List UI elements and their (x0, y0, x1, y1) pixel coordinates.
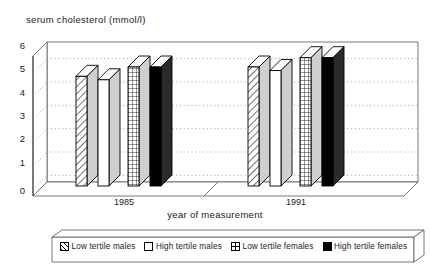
x-tick-label-1991: 1991 (266, 197, 326, 207)
legend-item-low-tertile-females: Low tertile females (231, 242, 314, 251)
bar-1991-low-tertile-females (300, 47, 322, 186)
legend: Low tertile males High tertile males Low… (60, 242, 407, 251)
y-tick-label-1: 1 (11, 157, 25, 168)
legend-item-high-tertile-males: High tertile males (144, 242, 221, 251)
bar-1985-high-tertile-males (98, 69, 120, 186)
y-tick-label-0: 0 (11, 185, 25, 196)
y-tick-label-3: 3 (11, 110, 25, 121)
legend-label-low-tertile-males: Low tertile males (72, 242, 136, 251)
plot-left-wall (33, 42, 47, 196)
y-axis-title: serum cholesterol (mmol/l) (26, 14, 146, 25)
legend-swatch-white-icon (144, 242, 153, 251)
legend-label-high-tertile-males: High tertile males (156, 242, 222, 251)
x-axis-title: year of measurement (0, 209, 430, 220)
y-tick-label-6: 6 (11, 40, 25, 51)
x-tick-label-1985: 1985 (94, 197, 154, 207)
legend-swatch-solid-black-icon (323, 242, 332, 251)
bar-chart-canvas (0, 0, 430, 274)
legend-label-low-tertile-females: Low tertile females (242, 242, 313, 251)
legend-swatch-cross-hatch-icon (231, 242, 240, 251)
bar-1985-low-tertile-females (128, 56, 150, 186)
bar-1991-high-tertile-females (322, 47, 344, 186)
legend-item-low-tertile-males: Low tertile males (60, 242, 135, 251)
y-tick-label-5: 5 (11, 63, 25, 74)
y-tick-label-2: 2 (11, 133, 25, 144)
legend-item-high-tertile-females: High tertile females (323, 242, 408, 251)
bar-1985-high-tertile-females (150, 56, 172, 186)
legend-swatch-diagonal-hatch-icon (60, 242, 69, 251)
bar-1991-low-tertile-males (248, 56, 270, 186)
y-tick-label-4: 4 (11, 87, 25, 98)
plot-floor (33, 182, 418, 196)
chart-figure: serum cholesterol (mmol/l) 6 5 4 3 2 1 0… (0, 0, 430, 274)
legend-label-high-tertile-females: High tertile females (334, 242, 407, 251)
bar-1991-high-tertile-males (270, 60, 292, 187)
bar-1985-low-tertile-males (76, 65, 98, 186)
